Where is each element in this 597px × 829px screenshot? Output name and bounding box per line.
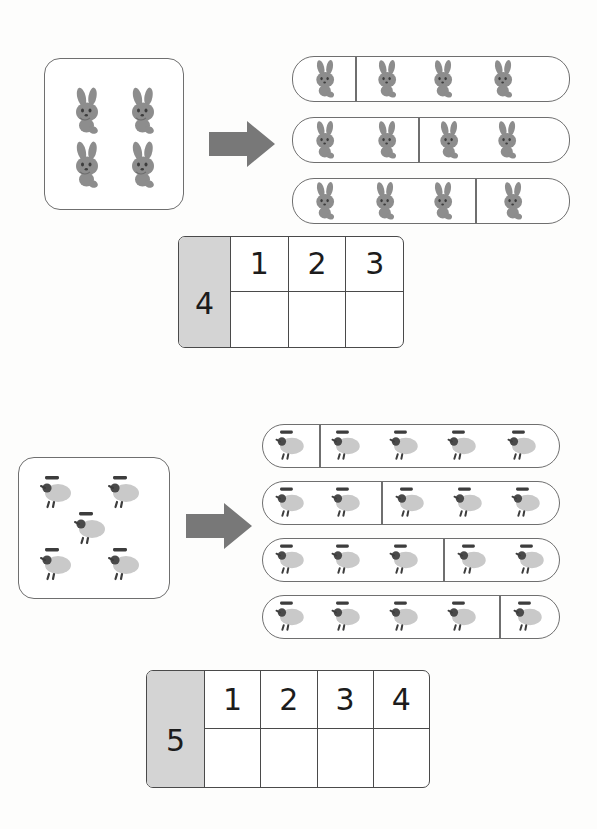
table-answer-cell[interactable]	[289, 292, 346, 347]
table-column: 1	[205, 671, 261, 787]
strip-row	[262, 595, 560, 639]
table-answer-cell[interactable]	[231, 292, 288, 347]
bunny-icon	[487, 57, 521, 105]
table-answer-cell[interactable]	[205, 729, 260, 787]
bunny-icon	[67, 87, 109, 139]
bunny-icon	[309, 179, 343, 227]
sheep-icon	[103, 546, 147, 588]
table-header-cell: 1	[205, 671, 260, 729]
sheep-icon	[503, 428, 543, 468]
sheep-icon	[271, 599, 311, 639]
strip-divider	[499, 596, 501, 638]
table-header-cell: 1	[231, 237, 288, 292]
strip-row	[262, 481, 560, 525]
sheep-icon	[327, 599, 367, 639]
table-column: 4	[374, 671, 429, 787]
table-total-label: 4	[195, 289, 214, 319]
table-header-label: 2	[307, 249, 326, 279]
table-column: 3	[318, 671, 374, 787]
sheep-icon	[271, 542, 311, 582]
sheep-icon	[391, 485, 431, 525]
sheep-icon	[443, 428, 483, 468]
bunny-icon	[433, 118, 467, 166]
sheep-icon	[385, 428, 425, 468]
table-column: 2	[261, 671, 317, 787]
sheep-icon	[453, 542, 493, 582]
table-header-label: 3	[365, 249, 384, 279]
bunny-icon	[427, 57, 461, 105]
table-total-cell: 5	[147, 671, 205, 787]
sheep-icon	[327, 428, 367, 468]
source-group-sheep	[18, 457, 170, 599]
sheep-icon	[443, 599, 483, 639]
table-header-label: 2	[279, 685, 298, 715]
table-header-cell: 2	[261, 671, 316, 729]
table-header-label: 1	[250, 249, 269, 279]
strip-row	[262, 424, 560, 468]
table-answer-cell[interactable]	[374, 729, 429, 787]
table-column: 2	[289, 237, 347, 347]
source-group-bunnies	[44, 58, 184, 210]
bunny-icon	[369, 179, 403, 227]
strip-row	[292, 56, 570, 102]
table-answer-cell[interactable]	[346, 292, 403, 347]
strip-divider	[381, 482, 383, 524]
strip-divider	[443, 539, 445, 581]
table-total-cell: 4	[179, 237, 231, 347]
table-header-label: 3	[336, 685, 355, 715]
table-column: 3	[346, 237, 403, 347]
number-table-5: 5 1 2 3 4	[146, 670, 430, 788]
number-table-4: 4 1 2 3	[178, 236, 404, 348]
sheep-icon	[385, 599, 425, 639]
sheep-icon	[327, 485, 367, 525]
sheep-icon	[449, 485, 489, 525]
strip-divider	[418, 118, 420, 162]
bunny-icon	[123, 87, 165, 139]
sheep-icon	[511, 542, 551, 582]
strip-divider	[355, 57, 357, 101]
bunny-icon	[123, 141, 165, 193]
sheep-icon	[271, 485, 311, 525]
table-header-cell: 3	[318, 671, 373, 729]
sheep-icon	[507, 485, 547, 525]
bunny-icon	[309, 118, 343, 166]
bunny-icon	[491, 118, 525, 166]
bunny-icon	[497, 179, 531, 227]
right-arrow-icon	[184, 500, 254, 556]
strip-divider	[475, 179, 477, 223]
table-header-cell: 4	[374, 671, 429, 729]
bunny-icon	[371, 57, 405, 105]
table-header-label: 1	[223, 685, 242, 715]
sheep-icon	[271, 428, 311, 468]
table-header-cell: 2	[289, 237, 346, 292]
table-total-label: 5	[166, 726, 185, 756]
bunny-icon	[371, 118, 405, 166]
right-arrow-icon	[207, 118, 277, 174]
strip-divider	[319, 425, 321, 467]
strip-row	[292, 117, 570, 163]
table-header-cell: 3	[346, 237, 403, 292]
table-answer-cell[interactable]	[261, 729, 316, 787]
bunny-icon	[309, 57, 343, 105]
strip-row	[262, 538, 560, 582]
sheep-icon	[385, 542, 425, 582]
table-column: 1	[231, 237, 289, 347]
table-header-label: 4	[392, 685, 411, 715]
bunny-icon	[427, 179, 461, 227]
bunny-icon	[67, 141, 109, 193]
strip-row	[292, 178, 570, 224]
sheep-icon	[327, 542, 367, 582]
table-answer-cell[interactable]	[318, 729, 373, 787]
worksheet-page: 4 1 2 3	[0, 0, 597, 829]
sheep-icon	[35, 546, 79, 588]
sheep-icon	[509, 599, 549, 639]
